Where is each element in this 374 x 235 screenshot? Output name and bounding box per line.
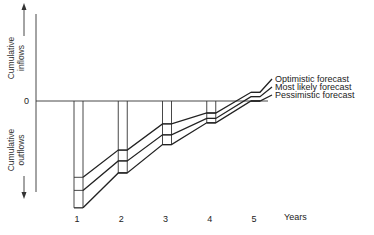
inflows-label-group: Cumulative inflows (6, 36, 26, 79)
x-tick-labels: 12345 (74, 214, 256, 224)
down-arrow-icon (22, 192, 27, 199)
x-tick-label: 4 (207, 214, 212, 224)
inflows-label-line2: inflows (16, 45, 26, 71)
series-label: Pessimistic forecast (275, 90, 355, 100)
x-tick-label: 1 (74, 214, 79, 224)
inflows-label-line1: Cumulative (6, 36, 16, 79)
cash-flow-forecast-chart: 0 Cumulative inflows Cumulative outflows… (0, 0, 374, 235)
up-arrow-icon (22, 3, 27, 10)
outflows-label-line2: outflows (16, 134, 26, 165)
outflows-label-line1: Cumulative (6, 128, 16, 171)
series-line-2 (83, 95, 272, 208)
forecast-lines (83, 79, 272, 208)
zero-label: 0 (24, 96, 29, 106)
series-labels: Optimistic forecastMost likely forecastP… (275, 74, 355, 100)
series-line-0 (83, 79, 272, 177)
x-tick-label: 2 (119, 214, 124, 224)
year-bars (74, 92, 260, 208)
outflows-label-group: Cumulative outflows (6, 128, 26, 171)
series-line-1 (83, 87, 272, 190)
x-tick-label: 3 (163, 214, 168, 224)
x-axis-label: Years (284, 212, 307, 222)
x-tick-label: 5 (251, 214, 256, 224)
